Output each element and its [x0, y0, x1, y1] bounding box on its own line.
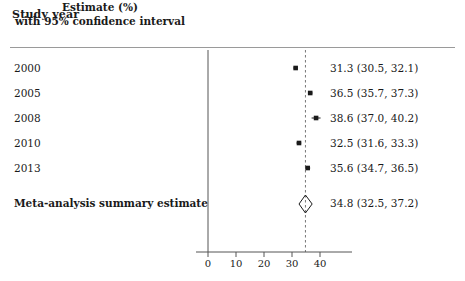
point-estimate-marker [305, 166, 310, 171]
point-estimate-marker [308, 91, 313, 96]
x-axis-tick-label: 30 [286, 258, 299, 269]
forest-plot-graphics [0, 0, 465, 281]
x-axis-tick-label: 40 [314, 258, 327, 269]
forest-plot: Study year Estimate (%) with 95% confide… [0, 0, 465, 281]
x-axis-tick-label: 10 [230, 258, 243, 269]
x-axis-tick-label: 20 [258, 258, 271, 269]
point-estimate-marker [293, 66, 298, 71]
point-estimate-marker [314, 116, 319, 121]
x-axis-tick-label: 0 [205, 258, 211, 269]
point-estimate-marker [297, 141, 302, 146]
estimate-markers [293, 66, 320, 213]
x-axis-ticks [208, 252, 320, 257]
